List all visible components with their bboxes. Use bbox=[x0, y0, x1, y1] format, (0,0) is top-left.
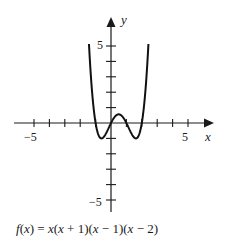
y-tick-label-5: 5 bbox=[97, 38, 103, 52]
function-graph: y x −5 5 5 −5 bbox=[0, 0, 227, 215]
x-tick-label-5: 5 bbox=[182, 130, 188, 144]
y-axis-arrow-icon bbox=[107, 17, 116, 27]
x-axis-label: x bbox=[204, 129, 211, 144]
function-curve bbox=[89, 44, 148, 138]
x-axis-arrow-icon bbox=[204, 119, 214, 128]
y-axis-label: y bbox=[119, 12, 127, 27]
function-caption: f(x) = x(x + 1)(x − 1)(x − 2) bbox=[16, 221, 158, 237]
y-tick-label-neg5: −5 bbox=[89, 195, 102, 209]
x-tick-label-neg5: −5 bbox=[24, 130, 37, 144]
